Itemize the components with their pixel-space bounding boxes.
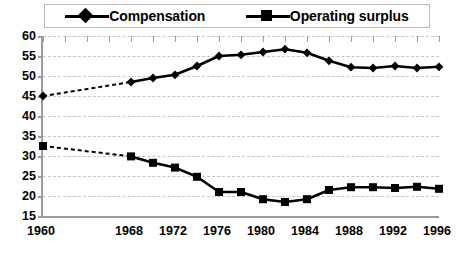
data-point-marker — [215, 188, 223, 196]
x-axis-tick-label: 1976 — [203, 224, 231, 238]
x-axis-tick — [329, 36, 330, 42]
x-axis-tick — [197, 36, 198, 42]
data-point-marker — [237, 188, 245, 196]
data-point-marker — [325, 186, 333, 194]
data-point-marker — [413, 183, 421, 191]
data-point-marker — [369, 183, 377, 191]
x-axis-tick-label: 1984 — [291, 224, 319, 238]
data-point-marker — [281, 45, 290, 54]
x-axis-tick — [109, 36, 110, 42]
data-point-marker — [127, 78, 136, 87]
data-point-marker — [369, 64, 378, 73]
data-point-marker — [39, 92, 48, 101]
y-axis-tick-label: 60 — [2, 29, 36, 43]
square-marker-icon — [246, 9, 290, 23]
y-axis-tick-label: 35 — [2, 129, 36, 143]
x-axis-tick — [263, 36, 264, 42]
data-point-marker — [193, 62, 202, 71]
data-point-marker — [39, 142, 47, 150]
diamond-marker-icon — [65, 9, 109, 23]
y-axis-tick-label: 30 — [2, 149, 36, 163]
x-axis-tick — [285, 36, 286, 42]
data-point-marker — [391, 184, 399, 192]
data-point-marker — [127, 152, 135, 160]
y-axis-tick-label: 25 — [2, 169, 36, 183]
legend-item-operating-surplus: Operating surplus — [246, 8, 409, 24]
data-point-marker — [325, 56, 334, 65]
data-point-marker — [215, 52, 224, 61]
series-line-operating-surplus — [131, 156, 439, 202]
chart-legend: Compensation Operating surplus — [44, 4, 430, 28]
data-point-marker — [281, 198, 289, 206]
y-axis-tick-label: 40 — [2, 109, 36, 123]
data-point-marker — [303, 195, 311, 203]
x-axis-tick-label: 1988 — [335, 224, 363, 238]
x-axis-tick — [373, 36, 374, 42]
data-point-marker — [347, 63, 356, 72]
legend-item-compensation: Compensation — [65, 8, 205, 24]
x-axis-tick — [131, 36, 132, 42]
data-point-marker — [391, 62, 400, 71]
data-point-marker — [435, 185, 443, 193]
x-axis-labels: 196019681972197619801984198819921996 — [41, 216, 437, 246]
x-axis-tick — [241, 36, 242, 42]
y-axis-tick-label: 45 — [2, 89, 36, 103]
series-gap-connector — [43, 82, 131, 96]
x-axis-tick-label: 1996 — [423, 224, 451, 238]
x-axis-tick — [87, 36, 88, 42]
x-axis-tick — [351, 36, 352, 42]
x-axis-tick-label: 1992 — [379, 224, 407, 238]
legend-label-operating-surplus: Operating surplus — [290, 8, 409, 24]
x-axis-tick-label: 1980 — [247, 224, 275, 238]
data-point-marker — [149, 74, 158, 83]
x-axis-tick — [153, 36, 154, 42]
y-axis-tick-label: 20 — [2, 189, 36, 203]
x-axis-tick — [417, 36, 418, 42]
plot-area — [41, 36, 439, 218]
data-point-marker — [237, 50, 246, 59]
data-point-marker — [303, 48, 312, 57]
data-point-marker — [259, 48, 268, 57]
x-axis-tick-label: 1968 — [115, 224, 143, 238]
x-axis-tick — [219, 36, 220, 42]
data-point-marker — [347, 183, 355, 191]
data-point-marker — [149, 159, 157, 167]
x-axis-tick — [65, 36, 66, 42]
x-axis-tick-label: 1972 — [159, 224, 187, 238]
y-axis-tick-label: 55 — [2, 49, 36, 63]
data-point-marker — [171, 70, 180, 79]
x-axis-tick — [439, 36, 440, 42]
data-point-marker — [435, 62, 444, 71]
x-axis-tick — [175, 36, 176, 42]
x-axis-tick — [307, 36, 308, 42]
legend-label-compensation: Compensation — [109, 8, 205, 24]
data-point-marker — [259, 195, 267, 203]
y-axis-tick-label: 50 — [2, 69, 36, 83]
x-axis-tick — [395, 36, 396, 42]
data-series-layer — [43, 36, 439, 216]
x-axis-tick — [43, 36, 44, 42]
data-point-marker — [193, 173, 201, 181]
y-axis-tick-label: 15 — [2, 209, 36, 223]
data-point-marker — [413, 64, 422, 73]
series-gap-connector — [43, 146, 131, 156]
chart-container: Compensation Operating surplus 152025303… — [0, 0, 460, 255]
x-axis-tick-label: 1960 — [27, 224, 55, 238]
data-point-marker — [171, 164, 179, 172]
